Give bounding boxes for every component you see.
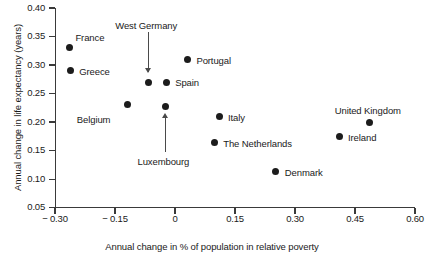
annotation-arrow-head-luxembourg: [162, 113, 168, 118]
y-tick-mark: [49, 7, 55, 8]
point-label-belgium: Belgium: [77, 114, 111, 125]
data-point-west-germany: [145, 79, 152, 86]
annotation-arrow-line-west-germany: [148, 32, 149, 72]
point-label-west-germany: West Germany: [86, 20, 206, 31]
annotation-arrow-head-west-germany: [145, 68, 151, 73]
point-label-united-kingdom: United Kingdom: [308, 105, 428, 116]
point-label-greece: Greece: [79, 66, 110, 77]
data-point-spain: [163, 79, 170, 86]
data-point-the-netherlands: [211, 139, 218, 146]
data-point-united-kingdom: [366, 119, 373, 126]
y-tick-mark: [49, 150, 55, 151]
point-label-denmark: Denmark: [285, 167, 323, 178]
data-point-portugal: [184, 56, 191, 63]
y-tick-label: 0.05: [27, 201, 45, 212]
data-point-belgium: [124, 101, 131, 108]
point-label-ireland: Ireland: [348, 132, 376, 143]
y-tick-label: 0.40: [27, 2, 45, 13]
data-point-luxembourg: [162, 103, 169, 110]
point-label-the-netherlands: The Netherlands: [223, 138, 292, 149]
annotation-arrow-line-luxembourg: [165, 117, 166, 152]
point-label-france: France: [75, 32, 104, 43]
point-label-portugal: Portugal: [196, 55, 231, 66]
y-tick-label: 0.25: [27, 87, 45, 98]
y-tick-mark: [49, 179, 55, 180]
data-point-greece: [67, 67, 74, 74]
data-point-france: [66, 44, 73, 51]
y-axis-line: [55, 8, 56, 208]
data-point-ireland: [336, 133, 343, 140]
x-tick-label: 0.60: [375, 213, 429, 224]
y-tick-label: 0.10: [27, 173, 45, 184]
point-label-luxembourg: Luxembourg: [103, 156, 223, 167]
y-tick-label: 0.35: [27, 30, 45, 41]
y-tick-label: 0.30: [27, 59, 45, 70]
y-tick-mark: [49, 93, 55, 94]
x-axis-title: Annual change in % of population in rela…: [0, 241, 424, 252]
y-tick-label: 0.20: [27, 116, 45, 127]
y-tick-mark: [49, 121, 55, 122]
y-tick-label: 0.15: [27, 144, 45, 155]
point-label-spain: Spain: [175, 77, 199, 88]
y-tick-mark: [49, 36, 55, 37]
y-tick-mark: [49, 64, 55, 65]
point-label-italy: Italy: [228, 112, 245, 123]
y-axis-title: Annual change in life expectancy (years): [12, 3, 23, 213]
data-point-italy: [216, 113, 223, 120]
data-point-denmark: [272, 168, 279, 175]
